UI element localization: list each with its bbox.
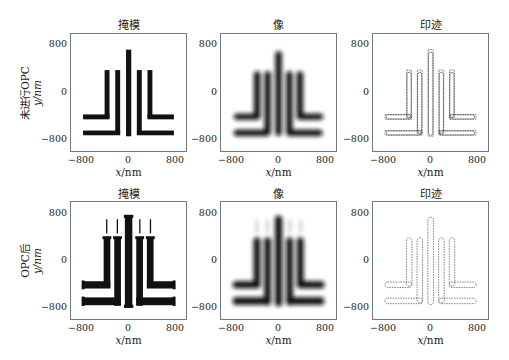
y-tick: 0	[33, 86, 67, 97]
y-tick: −800	[33, 133, 67, 144]
y-tick: −800	[33, 301, 67, 312]
x-axis-label: x/nm	[70, 334, 187, 346]
x-axis-label: x/nm	[372, 166, 489, 178]
x-tick: 800	[460, 154, 494, 165]
panel-title: 印迹	[372, 185, 489, 201]
plot-image-after-opc	[220, 201, 337, 320]
aerial-image	[221, 34, 336, 151]
y-tick: 800	[33, 38, 67, 49]
y-tick: 0	[183, 86, 217, 97]
plot-print-after-opc	[372, 201, 489, 320]
opc-mask-pattern	[71, 202, 186, 319]
y-tick: −800	[335, 301, 369, 312]
plot-print-no-opc	[372, 33, 489, 152]
plot-image-no-opc	[220, 33, 337, 152]
x-tick: 0	[111, 322, 145, 333]
x-tick: 800	[308, 322, 342, 333]
x-tick: 0	[413, 322, 447, 333]
x-tick: 800	[308, 154, 342, 165]
y-tick: −800	[335, 133, 369, 144]
y-tick: −800	[183, 301, 217, 312]
panel-title: 像	[220, 185, 337, 201]
x-tick: 800	[158, 322, 192, 333]
x-tick: −800	[64, 154, 98, 165]
y-tick: 800	[335, 207, 369, 218]
x-axis-label: x/nm	[70, 166, 187, 178]
row-label-text: 未进行OPC	[19, 51, 31, 135]
y-tick: 0	[33, 254, 67, 265]
y-tick: 0	[335, 254, 369, 265]
mask-pattern	[71, 34, 186, 151]
y-tick: 0	[183, 254, 217, 265]
x-axis-label: x/nm	[220, 166, 337, 178]
x-tick: 0	[413, 154, 447, 165]
x-tick: 800	[460, 322, 494, 333]
x-tick: −800	[366, 322, 400, 333]
printed-contour	[373, 202, 488, 319]
x-axis-label: x/nm	[372, 334, 489, 346]
x-tick: 800	[158, 154, 192, 165]
panel-title: 掩模	[70, 16, 187, 32]
x-tick: 0	[261, 322, 295, 333]
page-corner-mark	[459, 0, 499, 6]
panel-title: 像	[220, 16, 337, 32]
plot-mask-no-opc	[70, 33, 187, 152]
y-tick: 800	[183, 207, 217, 218]
panel-title: 印迹	[372, 16, 489, 32]
y-tick: 800	[183, 38, 217, 49]
row-label-text: OPC后	[19, 219, 31, 303]
x-axis-label: x/nm	[220, 334, 337, 346]
y-tick: 800	[335, 38, 369, 49]
plot-mask-after-opc	[70, 201, 187, 320]
x-tick: 0	[111, 154, 145, 165]
aerial-image	[221, 202, 336, 319]
x-tick: −800	[366, 154, 400, 165]
x-tick: −800	[64, 322, 98, 333]
printed-contour	[373, 34, 488, 151]
x-tick: −800	[214, 322, 248, 333]
x-tick: −800	[214, 154, 248, 165]
x-tick: 0	[261, 154, 295, 165]
y-tick: 800	[33, 207, 67, 218]
panel-title: 掩模	[70, 185, 187, 201]
y-tick: −800	[183, 133, 217, 144]
y-tick: 0	[335, 86, 369, 97]
